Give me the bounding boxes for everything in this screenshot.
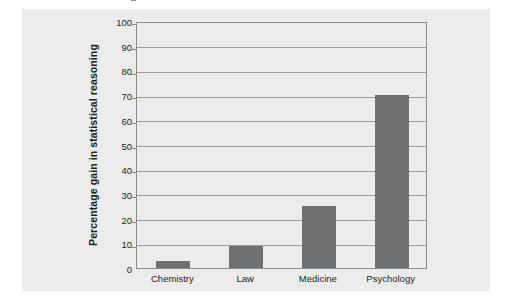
y-axis-tickmark <box>131 172 136 173</box>
y-axis-tickmark <box>131 148 136 149</box>
x-axis-tick-label: Psychology <box>366 273 415 284</box>
y-axis-tick-labels: 0102030405060708090100 <box>96 22 132 269</box>
y-axis-tick-label: 40 <box>98 165 132 176</box>
y-axis-tick-label: 60 <box>98 115 132 126</box>
x-axis-tick-label: Law <box>236 273 253 284</box>
y-axis-tick-label: 100 <box>98 17 132 28</box>
y-axis-tick-label: 0 <box>98 264 132 275</box>
plot-area <box>136 22 427 269</box>
gridline <box>137 72 426 73</box>
bar-psychology[interactable] <box>375 95 409 268</box>
y-axis-tick-label: 30 <box>98 189 132 200</box>
y-axis-tickmark <box>131 24 136 25</box>
y-axis-tickmark <box>131 247 136 248</box>
figure: Percentage gain in statistical reasoning… <box>0 0 510 303</box>
bar-law[interactable] <box>229 246 263 268</box>
x-axis-tick-label: Medicine <box>299 273 337 284</box>
y-axis-tickmark <box>131 98 136 99</box>
y-axis-tickmark <box>131 123 136 124</box>
y-axis-tick-label: 50 <box>98 140 132 151</box>
y-axis-tickmark <box>131 0 136 1</box>
y-axis-tickmark <box>131 222 136 223</box>
y-axis-tickmark <box>131 49 136 50</box>
y-axis-tick-label: 10 <box>98 239 132 250</box>
y-axis-tick-label: 80 <box>98 66 132 77</box>
y-axis-tickmark <box>131 74 136 75</box>
x-axis-tick-label: Chemistry <box>151 273 194 284</box>
bar-medicine[interactable] <box>302 206 336 268</box>
y-axis-tick-label: 20 <box>98 214 132 225</box>
y-axis-tickmark <box>131 197 136 198</box>
bar-chemistry[interactable] <box>156 261 190 268</box>
y-axis-tick-label: 70 <box>98 91 132 102</box>
gridline <box>137 47 426 48</box>
y-axis-tick-label: 90 <box>98 41 132 52</box>
